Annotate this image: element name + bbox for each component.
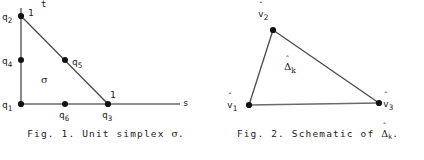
vertex-label-q2-sub: 2 — [8, 16, 13, 25]
s-axis-label: s — [183, 99, 188, 108]
interior-label-sigma: σ — [41, 75, 48, 85]
figure-2-caption-symbol-wrap: ˆΔ — [381, 128, 388, 139]
vertex-label-v1-sub: 1 — [233, 104, 238, 113]
triangle-edge-v1-v3 — [249, 103, 379, 105]
vertex-label-v2-sub: 2 — [264, 13, 269, 22]
hat-accent-icon: ˆ — [227, 94, 232, 102]
midpoint-label-q5: q5 — [72, 57, 82, 70]
vertex-label-q1-sub: 1 — [8, 104, 13, 113]
midpoint-label-q4: q4 — [2, 56, 12, 69]
vertex-dot-q2 — [18, 13, 24, 19]
unit-mark-t-axis: 1 — [28, 8, 34, 18]
figure-2-caption: Fig. 2. Schematic of ˆΔk. — [212, 128, 424, 141]
vertex-label-v1: ˆv1 — [227, 100, 237, 113]
hat-accent-icon: ˆ — [383, 123, 387, 131]
vertex-label-v3: ˆv3 — [383, 99, 393, 112]
figure-2-caption-terminator: . — [392, 128, 399, 139]
vertex-dot-v3 — [376, 100, 382, 106]
vertex-label-v2-hatwrap: ˆv — [258, 9, 264, 19]
midpoint-dot-q4 — [18, 57, 24, 63]
figure-1-caption-terminator: . — [178, 128, 185, 139]
vertex-label-v3-hatwrap: ˆv — [383, 99, 389, 109]
hat-accent-icon: ˆ — [383, 93, 388, 101]
midpoint-label-q6: q6 — [59, 110, 69, 123]
figure-2-caption-text: Schematic of — [292, 128, 374, 139]
unit-simplex-canvas: t s q2 1 q4 q5 σ q1 q6 — [0, 0, 212, 125]
midpoint-dot-q5 — [62, 57, 68, 63]
interior-label-hatwrap: ˆΔ — [284, 62, 291, 72]
vertex-dot-v2 — [270, 27, 276, 33]
vertex-dot-v1 — [246, 102, 252, 108]
midpoint-label-q5-sub: 5 — [78, 61, 83, 70]
vertex-dot-q3 — [105, 101, 111, 107]
midpoint-label-q4-sub: 4 — [8, 60, 13, 69]
vertex-label-v2: ˆv2 — [258, 9, 268, 22]
vertex-label-q3-sub: 3 — [108, 114, 113, 123]
vertex-label-q3: q3 — [102, 110, 112, 123]
midpoint-label-q6-sub: 6 — [65, 114, 70, 123]
figure-1-caption-text: Unit simplex — [82, 128, 164, 139]
schematic-triangle-canvas: ˆv2 ˆΔk ˆv1 ˆv3 — [212, 0, 424, 125]
interior-label-delta-k: ˆΔk — [284, 62, 296, 75]
vertex-label-q1: q1 — [2, 100, 12, 113]
figure-sheet: t s q2 1 q4 q5 σ q1 q6 — [0, 0, 424, 160]
figure-panel-unit-simplex: t s q2 1 q4 q5 σ q1 q6 — [0, 0, 212, 160]
t-axis-label: t — [41, 0, 46, 9]
figure-1-caption: Fig. 1. Unit simplex σ. — [0, 128, 212, 139]
figure-1-caption-prefix: Fig. 1. — [27, 128, 75, 139]
vertex-label-v1-hatwrap: ˆv — [227, 100, 233, 110]
interior-label-delta-sub: k — [291, 66, 296, 75]
hat-accent-icon: ˆ — [286, 56, 290, 64]
vertex-dot-q1 — [18, 101, 24, 107]
unit-mark-s-axis: 1 — [110, 90, 116, 100]
figure-panel-schematic: ˆv2 ˆΔk ˆv1 ˆv3 Fig. 2. Schematic of ˆΔk… — [212, 0, 424, 160]
figure-2-caption-prefix: Fig. 2. — [237, 128, 285, 139]
vertex-label-q2: q2 — [2, 12, 12, 25]
hat-accent-icon: ˆ — [258, 3, 263, 11]
midpoint-dot-q6 — [62, 101, 68, 107]
triangle-edge-v1-v2 — [249, 30, 273, 105]
vertex-label-v3-sub: 3 — [389, 103, 394, 112]
